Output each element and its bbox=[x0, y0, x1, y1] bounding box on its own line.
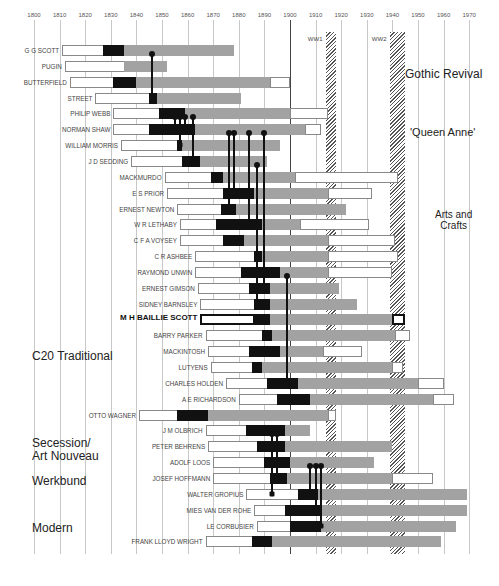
career-bar bbox=[236, 204, 346, 215]
later-life-bar bbox=[290, 108, 328, 119]
influence-link bbox=[309, 466, 311, 494]
career-bar bbox=[262, 219, 300, 230]
formative-period-bar bbox=[277, 394, 310, 405]
early-life-bar bbox=[165, 172, 212, 183]
war-label: WW2 bbox=[372, 36, 387, 42]
influence-dot bbox=[231, 130, 237, 136]
early-life-bar bbox=[131, 156, 183, 167]
influence-dot bbox=[285, 380, 290, 385]
career-bar bbox=[262, 362, 393, 373]
influence-link bbox=[151, 54, 153, 98]
influence-link bbox=[320, 466, 322, 525]
career-bar bbox=[318, 489, 466, 500]
x-tick-label: 1860 bbox=[181, 12, 194, 18]
career-bar bbox=[262, 251, 329, 262]
early-life-bar bbox=[198, 283, 250, 294]
later-life-bar bbox=[328, 410, 336, 421]
early-life-bar bbox=[113, 108, 160, 119]
influence-link bbox=[228, 133, 230, 208]
x-tick-label: 1870 bbox=[207, 12, 220, 18]
early-life-bar bbox=[257, 521, 291, 532]
architect-name: A E RICHARDSON bbox=[182, 396, 239, 403]
career-bar bbox=[136, 77, 269, 88]
career-bar bbox=[185, 108, 290, 119]
architect-name: PETER BEHRENS bbox=[152, 443, 208, 450]
early-life-bar bbox=[139, 410, 178, 421]
architect-name: FRANK LLOYD WRIGHT bbox=[131, 538, 205, 545]
influence-link bbox=[286, 276, 288, 383]
influence-link bbox=[192, 117, 194, 161]
x-tick-label: 1800 bbox=[27, 12, 40, 18]
influence-dot bbox=[262, 285, 267, 290]
later-life-bar bbox=[395, 330, 410, 341]
formative-period-bar bbox=[211, 172, 224, 183]
career-bar bbox=[298, 378, 418, 389]
career-bar bbox=[285, 441, 393, 452]
career-bar bbox=[270, 299, 357, 310]
career-bar bbox=[287, 473, 392, 484]
later-life-bar bbox=[328, 235, 395, 246]
influence-dot bbox=[254, 162, 260, 168]
architect-name: BARRY PARKER bbox=[154, 332, 206, 339]
influence-link bbox=[276, 434, 278, 478]
architect-name: E S PRIOR bbox=[132, 190, 167, 197]
early-life-bar bbox=[180, 219, 217, 230]
gridline bbox=[469, 20, 470, 554]
career-bar bbox=[124, 61, 168, 72]
movement-label: Secession/Art Nouveau bbox=[32, 437, 99, 463]
architect-name: JOSEF HOFFMANN bbox=[152, 475, 213, 482]
architect-name: WILLIAM MORRIS bbox=[65, 142, 121, 149]
early-life-bar bbox=[65, 61, 125, 72]
later-life-bar bbox=[418, 378, 444, 389]
career-bar bbox=[272, 536, 441, 547]
architect-name: MACKMURDO bbox=[120, 174, 165, 181]
architects-timeline-chart: 1800181018201830184018501860187018801890… bbox=[0, 0, 499, 586]
influence-dot bbox=[275, 475, 280, 480]
influence-dot bbox=[318, 463, 324, 469]
movement-label: 'Queen Anne' bbox=[410, 126, 475, 138]
later-life-bar bbox=[433, 394, 453, 405]
x-tick-label: 1820 bbox=[79, 12, 92, 18]
architect-name: LUTYENS bbox=[179, 364, 211, 371]
formative-period-bar bbox=[249, 346, 280, 357]
career-bar bbox=[321, 521, 457, 532]
architect-name: W R LETHABY bbox=[134, 221, 180, 228]
x-tick-label: 1850 bbox=[155, 12, 168, 18]
x-tick-label: 1940 bbox=[386, 12, 399, 18]
architect-name: ERNEST NEWTON bbox=[119, 206, 177, 213]
influence-dot bbox=[308, 491, 313, 496]
influence-link bbox=[263, 133, 265, 288]
architect-name: MIES VAN DER ROHE bbox=[187, 507, 255, 514]
architect-name: ERNEST GIMSON bbox=[142, 285, 198, 292]
later-life-bar bbox=[328, 251, 397, 262]
career-bar bbox=[124, 45, 234, 56]
influence-dot bbox=[274, 431, 280, 437]
later-life-bar bbox=[305, 124, 320, 135]
movement-label: Gothic Revival bbox=[405, 68, 482, 81]
influence-link bbox=[315, 466, 317, 510]
later-life-bar bbox=[328, 267, 392, 278]
influence-dot bbox=[190, 114, 196, 120]
formative-period-bar bbox=[103, 45, 123, 56]
formative-period-bar bbox=[177, 410, 208, 421]
x-tick-label: 1900 bbox=[283, 12, 296, 18]
movement-label: Modern bbox=[32, 522, 73, 535]
early-life-bar bbox=[62, 45, 104, 56]
x-tick-label: 1890 bbox=[258, 12, 271, 18]
career-bar bbox=[270, 283, 339, 294]
early-life-bar bbox=[113, 124, 150, 135]
influence-dot bbox=[254, 301, 259, 306]
influence-dot bbox=[182, 114, 188, 120]
architect-name: BUTTERFIELD bbox=[24, 79, 70, 86]
influence-link bbox=[233, 133, 235, 192]
influence-dot bbox=[313, 507, 318, 512]
gridline bbox=[444, 20, 445, 554]
career-bar bbox=[208, 410, 328, 421]
x-tick-label: 1950 bbox=[411, 12, 424, 18]
influence-dot bbox=[261, 130, 267, 136]
architect-name: M H BAILLIE SCOTT bbox=[120, 313, 200, 322]
x-tick-label: 1970 bbox=[463, 12, 476, 18]
formative-period-bar bbox=[252, 362, 262, 373]
later-life-bar bbox=[295, 172, 397, 183]
early-life-bar bbox=[180, 235, 225, 246]
